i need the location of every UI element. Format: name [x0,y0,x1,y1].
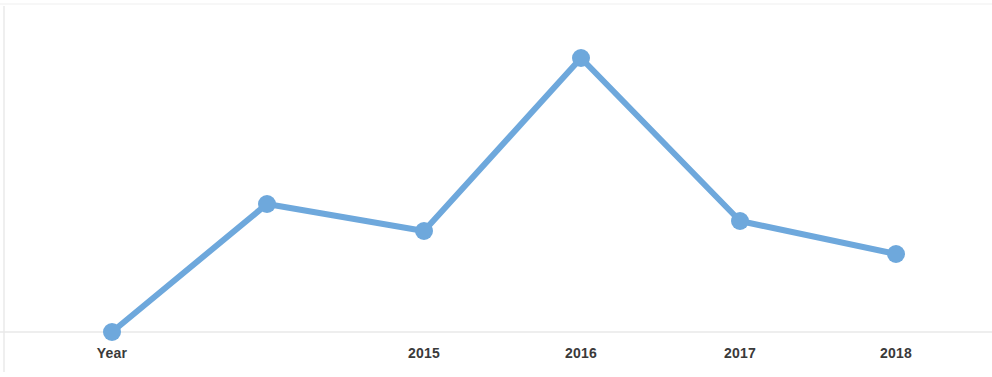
data-point-marker[interactable] [887,245,905,263]
data-point-marker[interactable] [731,212,749,230]
data-point-marker[interactable] [103,323,121,341]
chart-plot-area [0,0,992,377]
chart-background [0,0,992,377]
data-point-marker[interactable] [572,49,590,67]
line-chart: Year2015201620172018 [0,0,992,377]
data-point-marker[interactable] [415,222,433,240]
data-point-marker[interactable] [258,195,276,213]
